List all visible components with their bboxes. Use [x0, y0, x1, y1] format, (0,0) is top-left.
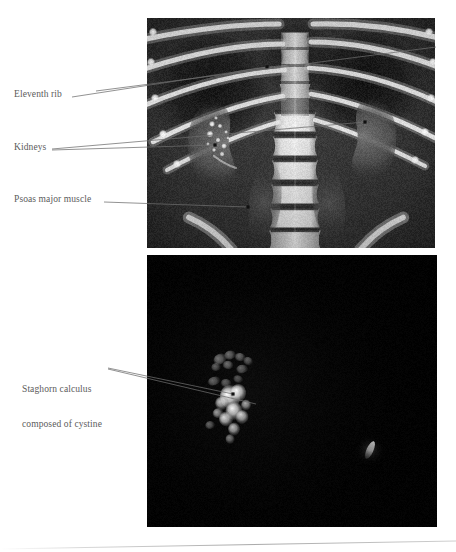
- page-bottom-rule: [0, 538, 456, 550]
- stone-rendering-panel: [147, 255, 437, 527]
- annotation-label-staghorn-line-2: composed of cystine: [22, 419, 102, 431]
- stone-rendering-image: [147, 255, 437, 527]
- figure-page: Eleventh rib Kidneys Psoas major muscle …: [0, 0, 456, 552]
- annotation-label-eleventh-rib: Eleventh rib: [14, 89, 62, 101]
- rule-line: [0, 541, 456, 549]
- coronal-ct-panel: [147, 18, 435, 248]
- coronal-ct-image: [147, 18, 435, 248]
- annotation-label-psoas-text: Psoas major muscle: [14, 194, 91, 204]
- annotation-label-staghorn-calculus: Staghorn calculus composed of cystine: [22, 361, 102, 453]
- annotation-label-psoas-major-muscle: Psoas major muscle: [14, 194, 91, 206]
- annotation-label-staghorn-line-1: Staghorn calculus: [22, 384, 102, 396]
- annotation-label-kidneys: Kidneys: [14, 142, 46, 154]
